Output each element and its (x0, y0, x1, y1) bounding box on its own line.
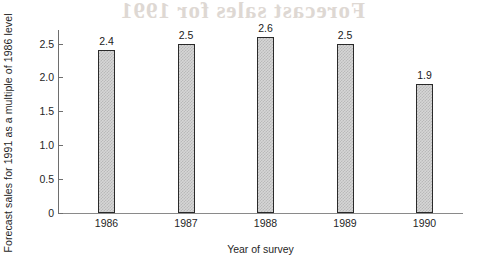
y-axis-tick (58, 77, 63, 78)
y-axis-tick-label: 0.5 (22, 174, 54, 185)
y-axis-tick-label-text: 2.0 (22, 72, 54, 83)
ghost-text: Forecast sales for 1991 (120, 0, 365, 24)
x-axis-tick-label: 1987 (161, 218, 211, 229)
x-axis-tick-label: 1988 (241, 218, 291, 229)
bar-value-label: 2.5 (325, 30, 365, 41)
x-axis-line (58, 213, 463, 214)
y-axis-tick-label: 2.5 (22, 39, 54, 50)
x-axis-tick-label: 1986 (82, 218, 132, 229)
bar (98, 50, 115, 213)
y-axis-tick-label: 0 (22, 208, 54, 219)
bar-value-label: 2.4 (87, 36, 127, 47)
y-axis-tick-label-text: 2.5 (22, 39, 54, 50)
y-axis-tick-label-text: 1.0 (22, 140, 54, 151)
bar-value-label: 2.6 (246, 23, 286, 34)
bar (416, 84, 433, 213)
y-axis-tick-label-text: 0.5 (22, 174, 54, 185)
y-axis-tick (58, 145, 63, 146)
y-axis-tick (58, 44, 63, 45)
x-axis-title: Year of survey (58, 243, 463, 255)
bar-chart: Forecast sales for 1991 Forecast sales f… (0, 0, 491, 266)
bar (178, 44, 195, 213)
y-axis-tick-label: 1.0 (22, 140, 54, 151)
y-axis-tick-label: 2.0 (22, 72, 54, 83)
y-axis-tick (58, 179, 63, 180)
bar (257, 37, 274, 213)
x-axis-tick-label: 1989 (320, 218, 370, 229)
y-axis-tick-label-text: 0 (22, 208, 54, 219)
y-axis-tick-label: 1.5 (22, 106, 54, 117)
y-axis-line (58, 30, 59, 214)
y-axis-tick (58, 111, 63, 112)
bar (337, 44, 354, 213)
y-axis-title: Forecast sales for 1991 as a multiple of… (0, 0, 16, 266)
bar-value-label: 2.5 (166, 30, 206, 41)
y-axis-tick (58, 213, 63, 214)
bar-value-label: 1.9 (405, 70, 445, 81)
y-axis-tick-label-text: 1.5 (22, 106, 54, 117)
x-axis-tick-label: 1990 (400, 218, 450, 229)
